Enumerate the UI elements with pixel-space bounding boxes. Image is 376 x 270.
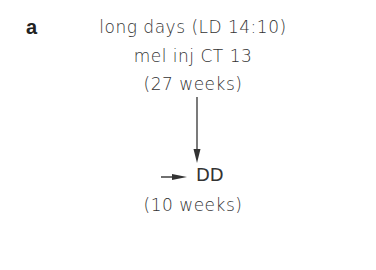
down-arrow-icon [194,97,201,163]
end-condition-label: DD [196,164,224,185]
diagram-arrows [0,0,376,270]
end-duration-text: (10 weeks) [0,195,376,215]
right-pointing-marker-icon [161,174,187,180]
